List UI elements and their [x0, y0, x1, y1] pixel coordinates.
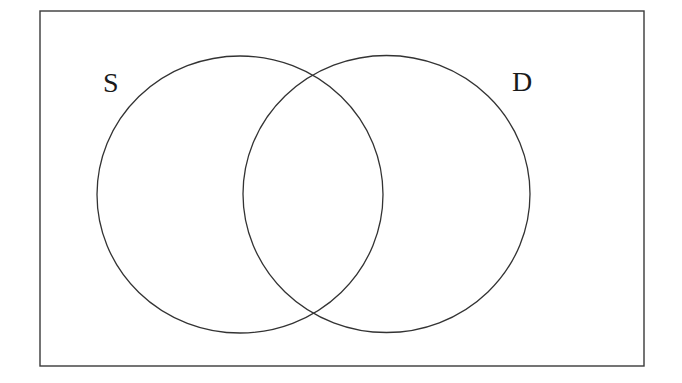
- set-d-label: D: [512, 66, 532, 97]
- universe-rectangle: [40, 11, 644, 366]
- set-s-circle: [97, 56, 383, 333]
- set-d-circle: [243, 56, 530, 333]
- set-s-label: S: [103, 67, 119, 98]
- venn-diagram: S D: [0, 0, 682, 383]
